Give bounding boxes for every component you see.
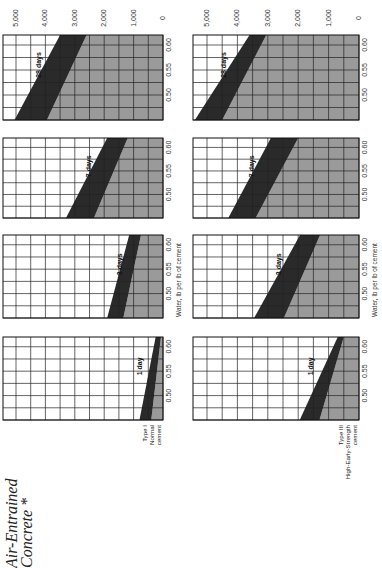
x-tick-label: 0.50 (165, 389, 172, 403)
y-tick-label: 4,000 (233, 9, 240, 27)
y-tick-label: 1,000 (325, 9, 332, 27)
y-tick-label: 5,000 (12, 9, 19, 27)
y-tick-label: 0 (355, 16, 362, 20)
y-tick-label: 4,000 (41, 9, 48, 27)
x-tick-label: 0.60 (361, 340, 368, 354)
x-tick-label: 0.55 (165, 63, 172, 77)
cement-type-label: High-Early-Strength (344, 424, 351, 479)
x-tick-label: 0.60 (361, 238, 368, 252)
cement-type-label: Normal (148, 425, 155, 445)
x-tick-label: 0.55 (361, 63, 368, 77)
x-axis-label: Water, lb per lb of cement (371, 243, 379, 317)
cement-type-label: cement (351, 425, 358, 446)
y-tick-label: 2,000 (294, 9, 301, 27)
chart-title-line2: Concrete * (18, 498, 35, 568)
x-tick-label: 0.60 (165, 140, 172, 154)
x-tick-label: 0.60 (165, 340, 172, 354)
cement-type-label: Type III (337, 425, 344, 446)
x-tick-label: 0.50 (165, 188, 172, 202)
band-label-1-day: 1 day (307, 357, 315, 375)
x-tick-label: 0.55 (165, 364, 172, 378)
x-tick-label: 0.50 (361, 88, 368, 102)
x-tick-label: 0.50 (361, 389, 368, 403)
y-tick-label: 3,000 (71, 9, 78, 27)
x-tick-label: 0.50 (361, 287, 368, 301)
band-label-3-days: 3 days (275, 253, 283, 275)
band-label-1-day: 1 day (136, 357, 144, 375)
y-tick-label: 3,000 (264, 9, 271, 27)
x-tick-label: 0.50 (361, 188, 368, 202)
x-tick-label: 0.60 (165, 238, 172, 252)
x-tick-label: 0.55 (361, 262, 368, 276)
x-tick-label: 0.60 (361, 38, 368, 52)
x-tick-label: 0.50 (165, 88, 172, 102)
y-tick-label: 5,000 (203, 9, 210, 27)
band-label-28-days: 28 days (220, 52, 228, 78)
x-tick-label: 0.55 (165, 164, 172, 178)
cement-type-label: Type I (141, 425, 148, 442)
x-tick-label: 0.50 (165, 287, 172, 301)
band-label-3-days: 3 days (116, 253, 124, 275)
x-tick-label: 0.60 (361, 140, 368, 154)
x-axis-label: Water, lb per lb of cement (175, 243, 183, 317)
y-tick-label: 0 (159, 16, 166, 20)
cement-type-label: cement (155, 425, 162, 446)
x-tick-label: 0.60 (165, 38, 172, 52)
y-tick-label: 1,000 (130, 9, 137, 27)
x-tick-label: 0.55 (361, 164, 368, 178)
x-tick-label: 0.55 (165, 262, 172, 276)
strength-chart: 28 days0.500.550.607 days0.500.550.603 d… (0, 0, 382, 568)
y-tick-label: 2,000 (100, 9, 107, 27)
x-tick-label: 0.55 (361, 364, 368, 378)
band-label-7-days: 7 days (85, 155, 93, 177)
band-label-28-days: 28 days (35, 52, 43, 78)
band-label-7-days: 7 days (248, 155, 256, 177)
